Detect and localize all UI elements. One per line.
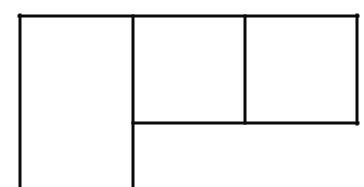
layout-diagram	[0, 0, 364, 187]
background	[0, 0, 364, 187]
